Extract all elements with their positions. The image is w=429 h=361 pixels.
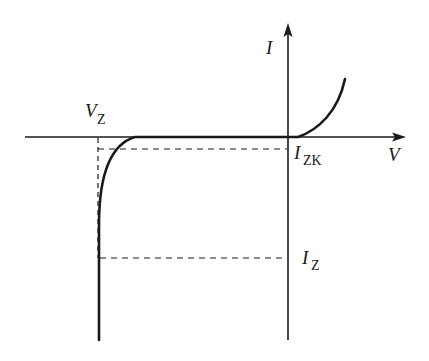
- izk-label: I: [293, 142, 302, 163]
- vz-label-subscript: Z: [97, 112, 106, 127]
- i-axis-label: I: [265, 37, 274, 58]
- reverse-breakdown-curve: [99, 137, 288, 340]
- zener-iv-diagram: I V V Z I ZK I Z: [0, 0, 429, 361]
- forward-bias-curve: [288, 79, 345, 137]
- v-axis-label: V: [388, 144, 402, 165]
- izk-label-subscript: ZK: [303, 153, 322, 168]
- iz-label-subscript: Z: [311, 258, 320, 273]
- iz-label: I: [301, 247, 310, 268]
